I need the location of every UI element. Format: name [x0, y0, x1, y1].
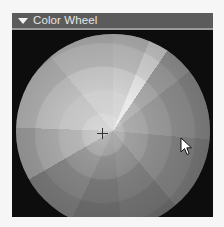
color-wheel-panel: Color Wheel — [12, 13, 213, 217]
color-wheel[interactable] — [16, 34, 210, 217]
wheel-area — [12, 30, 213, 217]
panel-title: Color Wheel — [33, 13, 97, 28]
wheel-shading — [16, 34, 210, 217]
panel-header[interactable]: Color Wheel — [12, 13, 213, 30]
triangle-down-icon[interactable] — [18, 18, 28, 24]
